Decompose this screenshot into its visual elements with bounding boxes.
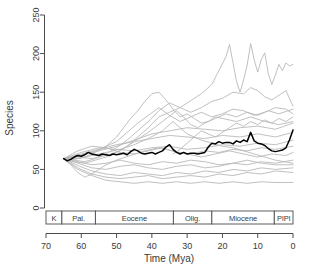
epoch-label: Pal. (72, 214, 85, 223)
series-layer (64, 44, 293, 184)
x-tick-label: 70 (41, 241, 51, 251)
x-tick-label: 30 (182, 241, 192, 251)
background-series-line (64, 159, 293, 176)
epoch-label: Eocene (122, 214, 147, 223)
x-tick-label: 0 (290, 241, 295, 251)
y-tick-label: 200 (31, 46, 41, 61)
x-axis-title: Time (Mya) (144, 253, 194, 264)
epoch-label: PlPl (277, 214, 291, 223)
y-tick-label: 50 (31, 164, 41, 174)
x-tick-layer: 706050403020100 (41, 234, 296, 252)
x-tick-label: 50 (112, 241, 122, 251)
x-tick-label: 20 (217, 241, 227, 251)
species-through-time-chart: 050100150200250 KPal.EoceneOlig.MioceneP… (0, 0, 309, 274)
y-tick-label: 150 (31, 85, 41, 100)
y-tick-layer: 050100150200250 (31, 7, 45, 210)
x-tick-label: 40 (147, 241, 157, 251)
y-axis-title: Species (4, 100, 15, 136)
geologic-epoch-bar: KPal.EoceneOlig.MiocenePlPl (46, 211, 293, 224)
x-tick-label: 10 (253, 241, 263, 251)
x-tick-label: 60 (76, 241, 86, 251)
epoch-label: Miocene (229, 214, 257, 223)
y-tick-label: 0 (31, 205, 41, 210)
focal-series-line (64, 130, 293, 161)
y-tick-label: 250 (31, 7, 41, 22)
background-series-line (64, 44, 293, 164)
epoch-label: Olig. (185, 214, 200, 223)
epoch-label: K (51, 214, 56, 223)
y-tick-label: 100 (31, 123, 41, 138)
chart-canvas: 050100150200250 KPal.EoceneOlig.MioceneP… (0, 0, 309, 274)
